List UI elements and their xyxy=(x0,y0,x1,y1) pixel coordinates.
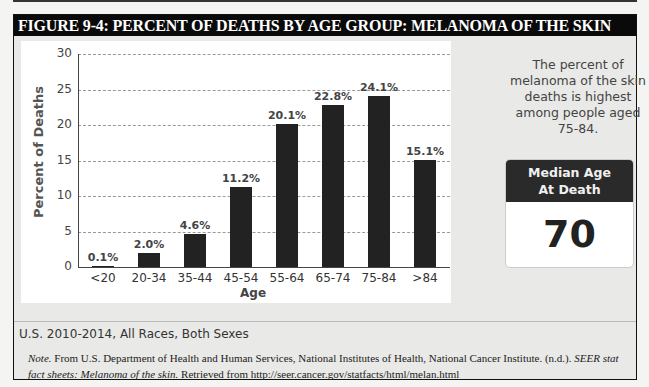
gridline xyxy=(78,232,450,233)
bar-45-54 xyxy=(230,187,252,267)
bar-35-44 xyxy=(184,234,206,267)
bar-value-label: 15.1% xyxy=(400,145,450,158)
median-age-header: Median Age At Death xyxy=(506,160,633,202)
gridline xyxy=(78,196,450,197)
x-axis xyxy=(78,267,450,268)
bar-value-label: 20.1% xyxy=(262,109,312,122)
bar-75-84 xyxy=(368,96,390,267)
note-text: From U.S. Department of Health and Human… xyxy=(52,352,575,364)
bar-55-64 xyxy=(276,124,298,267)
bar-65-74 xyxy=(322,105,344,267)
bar-value-label: 22.8% xyxy=(308,90,358,103)
y-tick-label: 30 xyxy=(52,46,72,60)
x-tick-label: 35-44 xyxy=(170,271,220,285)
x-tick-label: 65-74 xyxy=(308,271,358,285)
bar-value-label: 2.0% xyxy=(124,238,174,251)
bar-<20 xyxy=(92,266,114,268)
gridline xyxy=(78,125,450,126)
y-axis xyxy=(78,54,79,267)
figure-title: FIGURE 9-4: PERCENT OF DEATHS BY AGE GRO… xyxy=(14,15,636,36)
gridline xyxy=(78,161,450,162)
bar-value-label: 11.2% xyxy=(216,172,266,185)
note-retrieved: Retrieved from http://seer.cancer.gov/st… xyxy=(178,368,459,380)
bar-value-label: 4.6% xyxy=(170,219,220,232)
y-tick-label: 15 xyxy=(52,153,72,167)
data-scope-caption: U.S. 2010-2014, All Races, Both Sexes xyxy=(19,327,249,341)
median-header-line1: Median Age xyxy=(506,164,633,181)
y-tick-label: 20 xyxy=(52,117,72,131)
gridline xyxy=(78,54,450,55)
y-tick-label: 25 xyxy=(52,82,72,96)
median-age-card: Median Age At Death 70 xyxy=(505,159,634,268)
bar-chart: 0510152025300.1%<202.0%20-344.6%35-4411.… xyxy=(21,41,451,303)
x-tick-label: >84 xyxy=(400,271,450,285)
bar->84 xyxy=(414,160,436,267)
x-tick-label: 55-64 xyxy=(262,271,312,285)
y-tick-label: 5 xyxy=(52,224,72,238)
y-tick-label: 0 xyxy=(52,259,72,273)
x-tick-label: 75-84 xyxy=(354,271,404,285)
median-age-value: 70 xyxy=(506,202,633,267)
x-tick-label: 20-34 xyxy=(124,271,174,285)
bar-value-label: 24.1% xyxy=(354,81,404,94)
x-tick-label: 45-54 xyxy=(216,271,266,285)
y-tick-label: 10 xyxy=(52,188,72,202)
x-axis-title: Age xyxy=(240,286,266,300)
source-note: Note. From U.S. Department of Health and… xyxy=(28,350,628,382)
chart-panel: 0510152025300.1%<202.0%20-344.6%35-4411.… xyxy=(21,41,451,303)
bar-value-label: 0.1% xyxy=(78,251,128,264)
note-label: Note. xyxy=(28,352,52,364)
figure-frame: FIGURE 9-4: PERCENT OF DEATHS BY AGE GRO… xyxy=(13,14,637,380)
bar-20-34 xyxy=(138,253,160,267)
median-header-line2: At Death xyxy=(506,181,633,198)
y-axis-title: Percent of Deaths xyxy=(31,86,46,218)
x-tick-label: <20 xyxy=(78,271,128,285)
top-rule xyxy=(13,0,637,2)
footer-divider xyxy=(14,321,636,322)
insight-text: The percent of melanoma of the skin deat… xyxy=(507,57,649,137)
